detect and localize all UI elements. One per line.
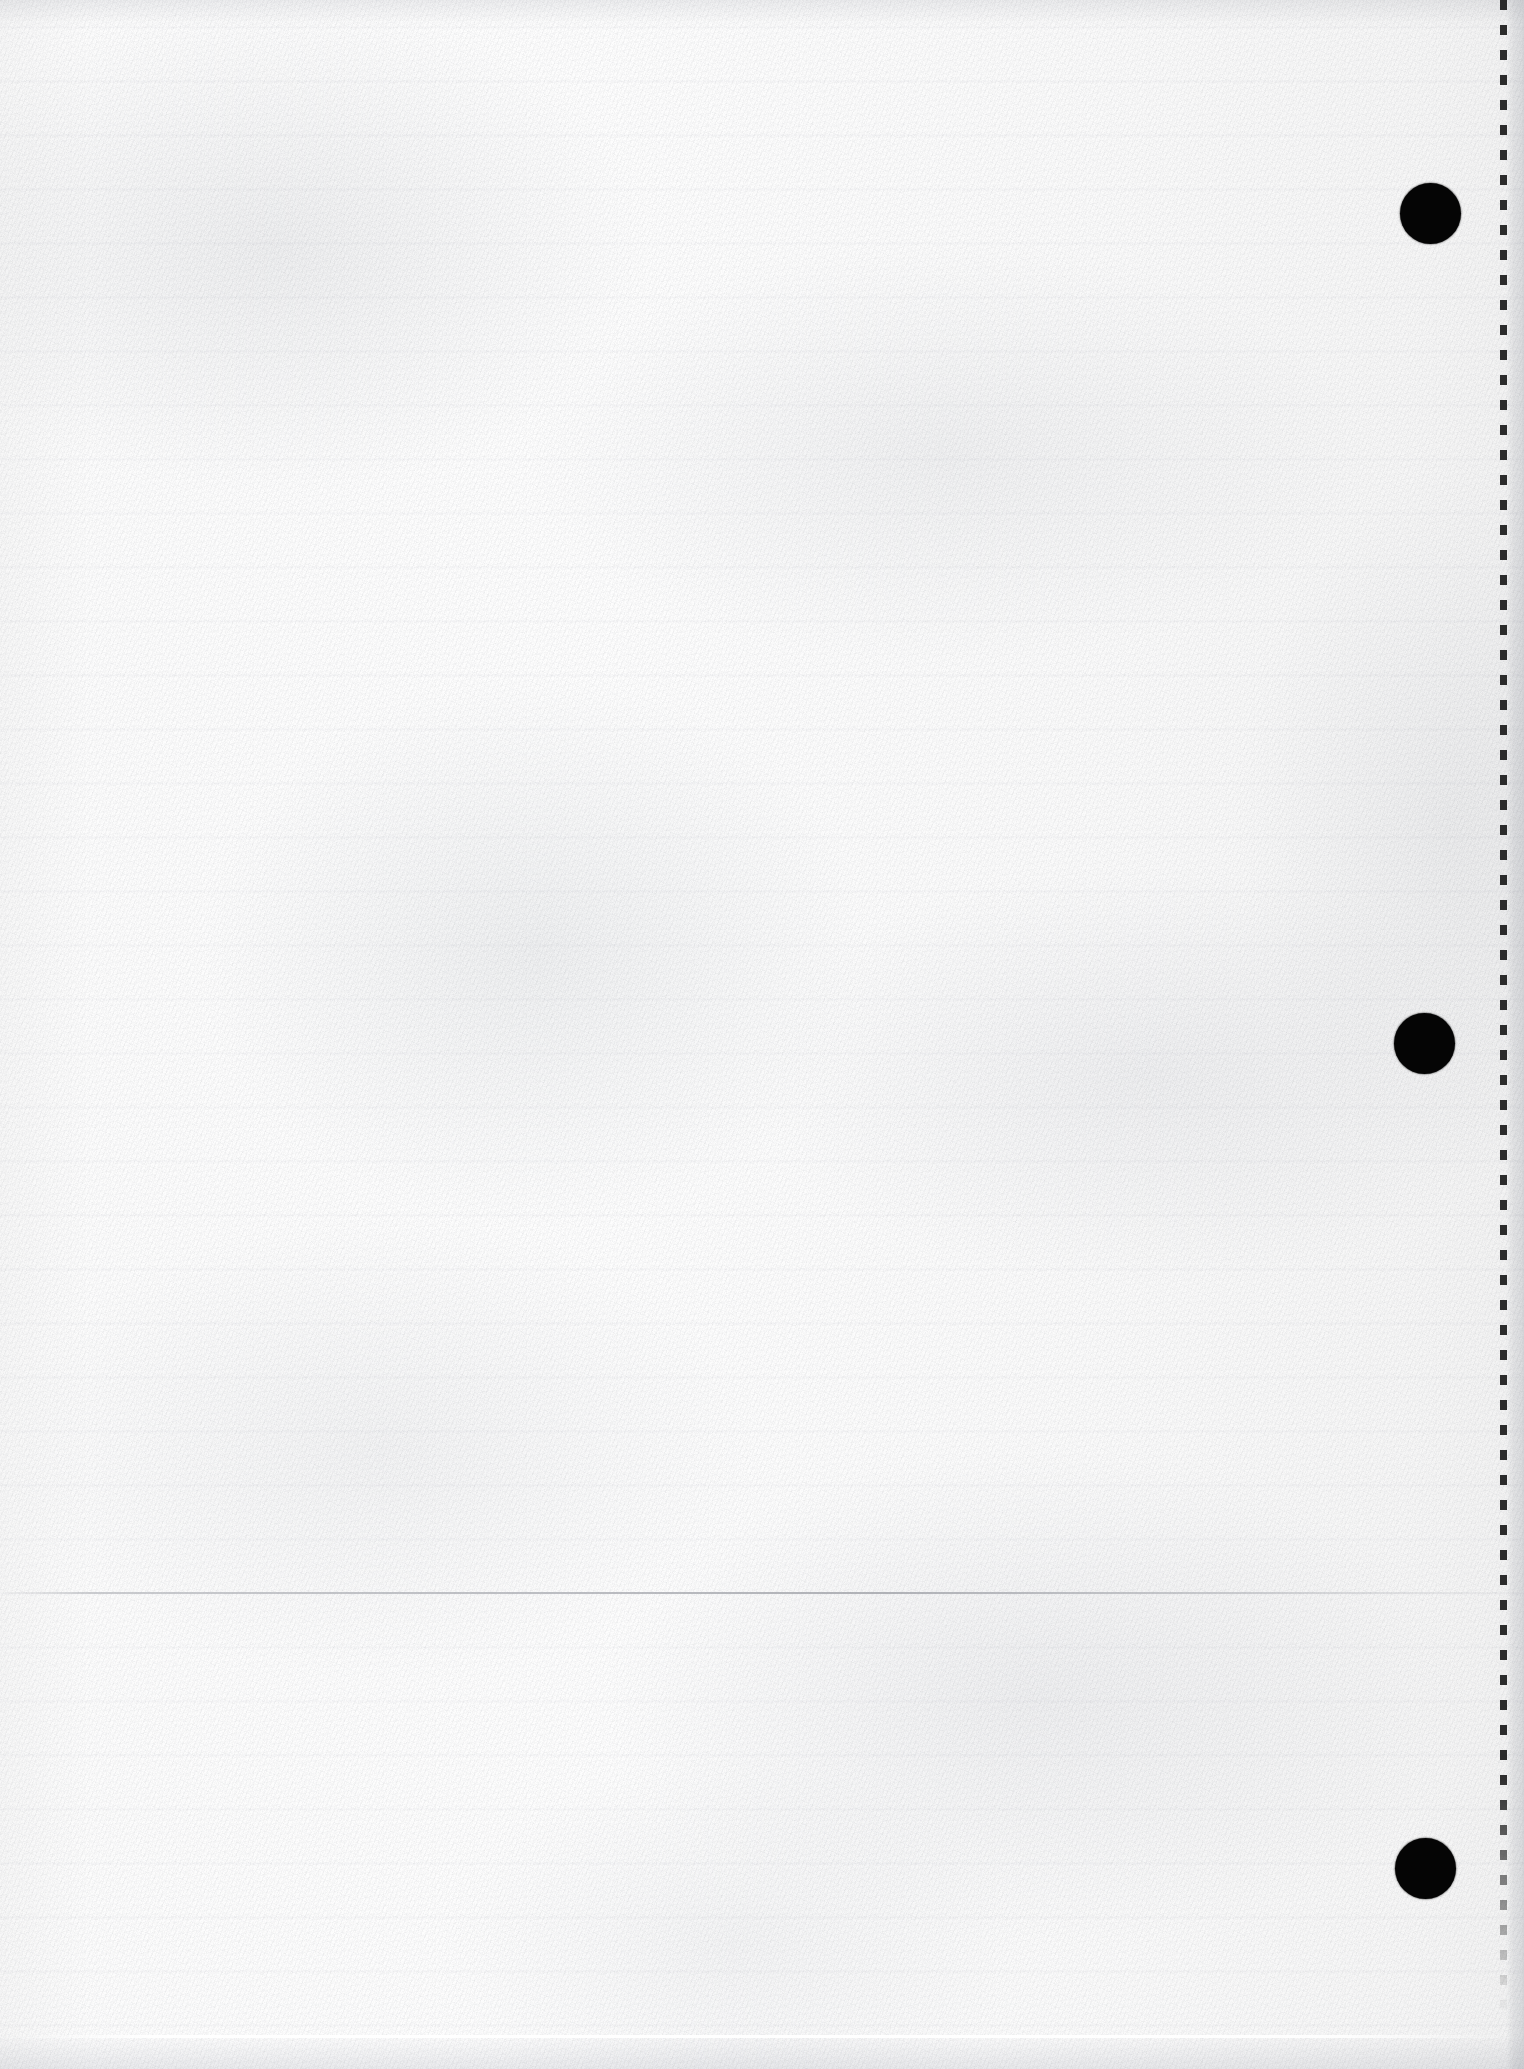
punch-hole-bottom <box>1395 1838 1456 1899</box>
paper-grain-layer-3 <box>0 0 1524 2069</box>
page-bottom-edge-shading <box>0 2035 1524 2069</box>
punch-hole-middle <box>1394 1013 1455 1074</box>
page-top-edge-shading <box>0 0 1524 26</box>
punch-hole-top <box>1400 183 1461 244</box>
perforation-line <box>1500 0 1507 2015</box>
scanned-page <box>0 0 1524 2069</box>
